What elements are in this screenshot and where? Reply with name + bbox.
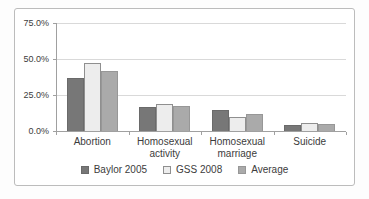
- bar-average-abortion: [101, 71, 118, 131]
- x-axis-tick: [346, 132, 347, 135]
- bar-group-homosexual-activity: [129, 23, 202, 131]
- legend-label-gss-2008: GSS 2008: [176, 164, 222, 175]
- bar-group-suicide: [274, 23, 347, 131]
- y-tick-label: 25.0%: [13, 90, 49, 100]
- x-axis-tick: [56, 132, 57, 135]
- bar-baylor-2005-abortion: [67, 78, 84, 131]
- chart-legend: Baylor 2005GSS 2008Average: [15, 164, 354, 175]
- bar-gss-2008-homosexual-activity: [156, 104, 173, 131]
- legend-label-average: Average: [251, 164, 288, 175]
- legend-label-baylor-2005: Baylor 2005: [94, 164, 147, 175]
- bar-average-suicide: [318, 124, 335, 131]
- legend-swatch-gss-2008: [163, 166, 171, 174]
- category-label-homosexual-marriage: Homosexual marriage: [201, 136, 274, 160]
- plot-area: 0.0%25.0%50.0%75.0%AbortionHomosexual ac…: [15, 9, 354, 185]
- chart-frame: 0.0%25.0%50.0%75.0%AbortionHomosexual ac…: [14, 8, 355, 186]
- category-label-homosexual-activity: Homosexual activity: [129, 136, 202, 160]
- legend-swatch-average: [238, 166, 246, 174]
- legend-item-average: Average: [238, 164, 288, 175]
- bar-average-homosexual-activity: [173, 106, 190, 131]
- y-tick-label: 75.0%: [13, 18, 49, 28]
- bar-gss-2008-suicide: [301, 123, 318, 131]
- bar-baylor-2005-suicide: [284, 125, 301, 131]
- bar-group-abortion: [56, 23, 129, 131]
- bar-average-homosexual-marriage: [246, 114, 263, 131]
- legend-swatch-baylor-2005: [81, 166, 89, 174]
- category-label-abortion: Abortion: [56, 136, 129, 148]
- category-label-suicide: Suicide: [274, 136, 347, 148]
- y-tick-label: 0.0%: [13, 126, 49, 136]
- legend-item-gss-2008: GSS 2008: [163, 164, 222, 175]
- bar-group-homosexual-marriage: [201, 23, 274, 131]
- bar-gss-2008-homosexual-marriage: [229, 117, 246, 131]
- x-axis-tick: [129, 132, 130, 135]
- bar-baylor-2005-homosexual-marriage: [212, 110, 229, 131]
- x-axis-tick: [201, 132, 202, 135]
- bar-baylor-2005-homosexual-activity: [139, 107, 156, 131]
- chart-image: 0.0%25.0%50.0%75.0%AbortionHomosexual ac…: [0, 0, 369, 199]
- legend-item-baylor-2005: Baylor 2005: [81, 164, 147, 175]
- y-tick-label: 50.0%: [13, 54, 49, 64]
- x-axis-tick: [274, 132, 275, 135]
- bar-gss-2008-abortion: [84, 63, 101, 131]
